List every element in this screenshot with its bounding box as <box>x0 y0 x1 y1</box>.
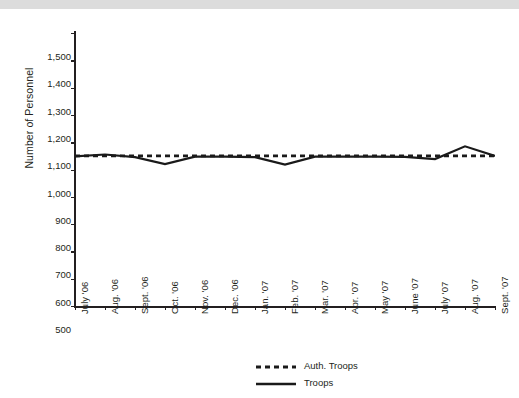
y-axis-tick-label: 600 <box>37 298 71 308</box>
y-axis-tick-label: 1,000 <box>37 189 71 199</box>
x-axis-tick-mark <box>225 306 226 310</box>
x-axis-tick-label: Oct. '06 <box>169 281 180 314</box>
x-axis-tick-mark <box>165 306 166 310</box>
chart-series-svg <box>75 33 495 306</box>
x-axis-tick-mark <box>315 306 316 310</box>
x-axis-tick-label: Dec. '06 <box>229 279 240 314</box>
x-axis-tick-label: Sept. '07 <box>499 276 510 314</box>
legend-label-auth-troops: Auth. Troops <box>304 360 358 371</box>
x-axis-tick-mark <box>405 306 406 310</box>
legend-swatch-solid <box>255 376 297 388</box>
y-axis-tick-label: 500 <box>37 325 71 335</box>
x-axis-tick-label: Sept. '06 <box>139 276 150 314</box>
x-axis-tick-label: Jan. '07 <box>259 281 270 314</box>
y-axis-tick-label: 1,300 <box>37 107 71 117</box>
chart-figure: Number of Personnel 5006007008009001,000… <box>0 9 519 398</box>
top-gray-band <box>0 0 519 9</box>
x-axis-tick-mark <box>195 306 196 310</box>
x-axis-tick-mark <box>255 306 256 310</box>
y-axis-tick-label: 800 <box>37 243 71 253</box>
y-axis-tick-label: 900 <box>37 216 71 226</box>
legend-item-auth-troops: Auth. Troops <box>255 358 358 372</box>
y-axis-tick-labels: 5006007008009001,0001,1001,2001,3001,400… <box>33 33 71 306</box>
y-axis-tick-label: 700 <box>37 270 71 280</box>
x-axis-tick-label: Aug. '07 <box>469 279 480 314</box>
x-axis-tick-label: Aug. '06 <box>109 279 120 314</box>
x-axis-tick-mark <box>75 306 76 310</box>
y-axis-tick-label: 1,400 <box>37 79 71 89</box>
x-axis-tick-mark <box>465 306 466 310</box>
x-axis-tick-label: Nov. '06 <box>199 280 210 314</box>
y-axis-tick-label: 1,500 <box>37 52 71 62</box>
x-axis-tick-label: June '07 <box>409 278 420 314</box>
x-axis-tick-label: Mar. '07 <box>319 280 330 314</box>
x-axis-tick-mark <box>495 306 496 310</box>
x-axis-tick-label: Apr. '07 <box>349 282 360 314</box>
legend-item-troops: Troops <box>255 375 333 389</box>
x-axis-tick-mark <box>375 306 376 310</box>
chart-legend: Auth. Troops Troops <box>255 358 455 392</box>
x-axis-tick-label: July '07 <box>439 282 450 314</box>
legend-label-troops: Troops <box>304 377 333 388</box>
x-axis-tick-label: July '06 <box>79 282 90 314</box>
x-axis-tick-mark <box>345 306 346 310</box>
y-axis-tick-label: 1,200 <box>37 134 71 144</box>
y-axis-tick-label: 1,100 <box>37 161 71 171</box>
x-axis-tick-mark <box>105 306 106 310</box>
legend-swatch-dotted <box>255 359 297 371</box>
x-axis-tick-mark <box>435 306 436 310</box>
x-axis-tick-mark <box>285 306 286 310</box>
x-axis-tick-label: Feb. '07 <box>289 280 300 314</box>
x-axis-tick-mark <box>135 306 136 310</box>
plot-area <box>75 33 495 306</box>
x-axis-tick-label: May '07 <box>379 281 390 314</box>
